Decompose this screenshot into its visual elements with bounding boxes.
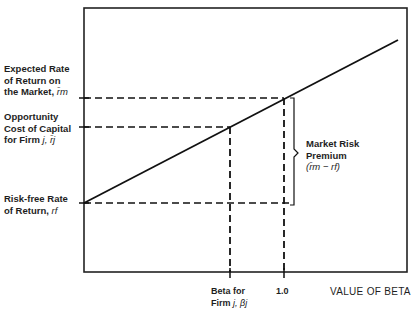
label-firm-cost: Opportunity Cost of Capital for Firm j, …: [4, 111, 71, 146]
label-market-risk-premium: Market Risk Premium (r̄m − rf): [306, 138, 359, 173]
label-beta-firm: Beta for Firm j, βj: [211, 286, 247, 309]
x-axis-title: VALUE OF BETA: [330, 286, 411, 298]
risk-premium-bracket: [290, 98, 298, 205]
label-beta-one: 1.0: [276, 286, 289, 298]
label-riskfree: Risk-free Rate of Return, rf: [4, 193, 68, 216]
security-market-line: [84, 40, 398, 203]
label-market-return: Expected Rate of Return on the Market, r…: [4, 63, 69, 98]
